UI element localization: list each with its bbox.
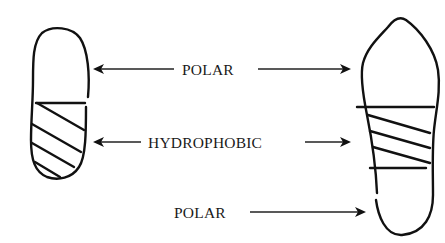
hatch-line bbox=[370, 131, 430, 148]
hatch-line bbox=[373, 147, 430, 163]
large-molecule-shape bbox=[357, 18, 439, 235]
large-molecule-outline bbox=[362, 18, 439, 235]
diagram-canvas: POLAR HYDROPHOBIC POLAR bbox=[0, 0, 445, 243]
label-polar-top: POLAR bbox=[182, 61, 234, 78]
label-hydrophobic: HYDROPHOBIC bbox=[148, 134, 262, 151]
hatch-line bbox=[368, 115, 430, 133]
hatch-line bbox=[37, 103, 84, 130]
label-polar-bottom: POLAR bbox=[174, 204, 226, 221]
small-molecule-shape bbox=[31, 28, 89, 179]
polar-bottom-arrow bbox=[250, 207, 366, 217]
